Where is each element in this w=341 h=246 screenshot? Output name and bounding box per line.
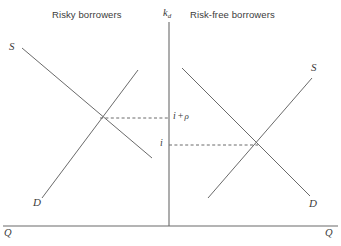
right-panel-title: Risk-free borrowers xyxy=(190,9,275,20)
rate-label-risk-premium: i+ρ xyxy=(173,110,189,121)
horizontal-axis-label-right: Q xyxy=(325,227,333,238)
rate-label-base: i xyxy=(173,110,176,121)
vertical-axis-label-subscript: d xyxy=(168,12,172,20)
horizontal-axis-label-left: Q xyxy=(4,227,12,238)
left-supply-curve xyxy=(22,48,152,158)
right-supply-curve-label: S xyxy=(311,61,317,73)
diagram-canvas xyxy=(0,0,341,246)
rate-label-plus-sign: + xyxy=(178,110,184,121)
rate-label-premium-symbol: ρ xyxy=(184,111,188,121)
left-demand-curve-label: D xyxy=(33,196,41,208)
right-demand-curve-label: D xyxy=(309,197,317,209)
right-demand-curve xyxy=(182,68,310,196)
left-supply-curve-label: S xyxy=(9,40,15,52)
vertical-axis-label: kd xyxy=(163,7,171,20)
left-panel-title: Risky borrowers xyxy=(52,9,122,20)
economics-supply-demand-figure: Risky borrowers Risk-free borrowers kd Q… xyxy=(0,0,341,246)
rate-label-riskfree: i xyxy=(160,137,163,148)
right-supply-curve xyxy=(208,78,312,198)
